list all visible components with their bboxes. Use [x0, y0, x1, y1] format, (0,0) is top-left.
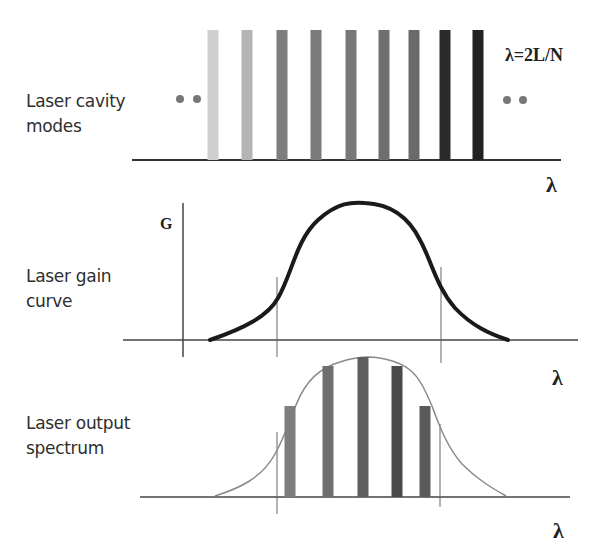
laser-diagram — [0, 0, 604, 550]
lasing-mode-lines — [285, 357, 431, 497]
cavity-mode-line — [242, 30, 253, 160]
ellipsis-dot-icon — [193, 95, 201, 103]
ellipsis-dot-icon — [503, 96, 511, 104]
lasing-mode-line — [358, 357, 369, 497]
lasing-mode-line — [420, 406, 431, 497]
lasing-mode-line — [323, 366, 334, 497]
cavity-mode-line — [473, 30, 484, 160]
cavity-mode-line — [208, 30, 219, 160]
lasing-mode-line — [285, 406, 296, 497]
gain-curve — [210, 203, 508, 340]
output-spectrum-panel — [140, 357, 570, 514]
cavity-mode-line — [409, 30, 420, 160]
cavity-mode-line — [379, 30, 390, 160]
cavity-mode-line — [346, 30, 357, 160]
cavity-modes-panel — [132, 30, 561, 160]
cavity-mode-line — [277, 30, 288, 160]
gain-curve-panel — [123, 203, 578, 363]
lasing-mode-line — [392, 366, 403, 497]
cavity-mode-line — [311, 30, 322, 160]
cavity-mode-line — [440, 30, 451, 160]
ellipsis-dot-icon — [176, 95, 184, 103]
cavity-mode-lines — [208, 30, 484, 160]
ellipsis-dot-icon — [519, 96, 527, 104]
